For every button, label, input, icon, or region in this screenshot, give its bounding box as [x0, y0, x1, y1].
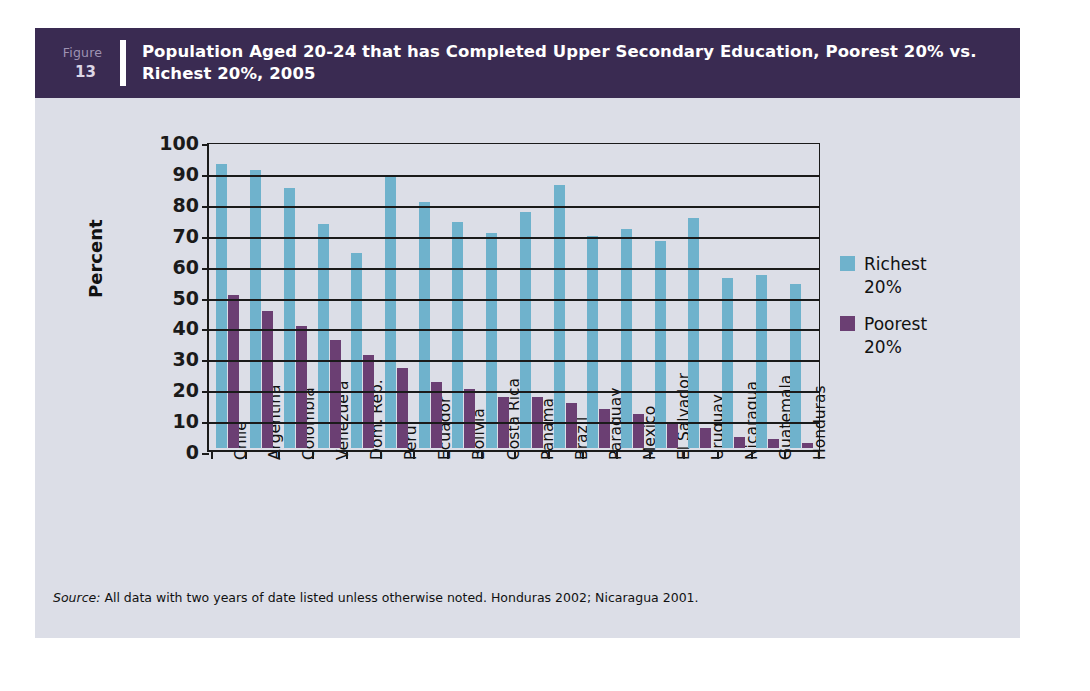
bar-group: [481, 144, 515, 448]
x-tick-mark: [278, 450, 312, 459]
legend-label: Poorest 20%: [864, 313, 942, 359]
x-tick-mark: [649, 450, 683, 459]
bar-group: [447, 144, 481, 448]
x-tick-label-cell: Argentina: [243, 456, 277, 576]
x-tick-mark: [211, 450, 245, 459]
gridline: [209, 329, 819, 331]
x-tick-label-cell: Bolivia: [447, 456, 481, 576]
gridline: [209, 206, 819, 208]
x-tick-mark: [312, 450, 346, 459]
source-text: All data with two years of date listed u…: [100, 590, 698, 605]
x-tick-mark: [346, 450, 380, 459]
bar-poorest: [566, 403, 577, 448]
bar-poorest: [768, 439, 779, 448]
bar-poorest: [363, 355, 374, 448]
gridline: [209, 175, 819, 177]
y-tick-label: 70: [173, 226, 199, 245]
bar-richest: [318, 224, 329, 448]
x-tick-label-cell: Nicaragua: [720, 456, 754, 576]
x-tick-label-cell: Chile: [209, 456, 243, 576]
figure-root: Figure 13 Population Aged 20-24 that has…: [0, 0, 1090, 691]
gridline: [209, 268, 819, 270]
y-tick-label: 80: [173, 195, 199, 214]
y-tick-label: 20: [173, 381, 199, 400]
source-note: Source: All data with two years of date …: [53, 590, 993, 606]
legend-label: Richest 20%: [864, 253, 942, 299]
y-tick-mark: [202, 360, 209, 362]
bar-richest: [452, 222, 463, 448]
bar-richest: [385, 175, 396, 448]
y-tick-mark: [202, 391, 209, 393]
header-divider-rule: [120, 40, 126, 86]
x-tick-label-cell: El Salvador: [652, 456, 686, 576]
bar-group: [683, 144, 717, 448]
x-tick-mark: [548, 450, 582, 459]
bar-group: [211, 144, 245, 448]
bar-richest: [655, 241, 666, 448]
y-tick-label: 40: [173, 319, 199, 338]
bar-group: [751, 144, 785, 448]
x-tick-mark: [616, 450, 650, 459]
x-tick-mark: [413, 450, 447, 459]
legend-swatch-icon: [840, 256, 855, 271]
x-tick-label-cell: Colombia: [277, 456, 311, 576]
y-tick-mark: [202, 453, 209, 455]
x-tick-mark: [481, 450, 515, 459]
x-tick-label-cell: Mexico: [618, 456, 652, 576]
x-axis-ticks: [211, 450, 818, 459]
x-tick-mark: [447, 450, 481, 459]
x-tick-label-cell: Guatemala: [754, 456, 788, 576]
x-tick-mark: [751, 450, 785, 459]
bar-poorest: [633, 414, 644, 448]
chart-legend: Richest 20%Poorest 20%: [840, 253, 990, 373]
y-tick-label: 50: [173, 288, 199, 307]
x-tick-mark: [380, 450, 414, 459]
y-axis-title: Percent: [85, 219, 106, 298]
x-tick-label-cell: Peru: [379, 456, 413, 576]
bar-poorest: [397, 368, 408, 448]
bar-poorest: [464, 389, 475, 448]
gridline: [209, 237, 819, 239]
figure-title: Population Aged 20-24 that has Completed…: [142, 41, 1020, 86]
bar-group: [649, 144, 683, 448]
bar-richest: [419, 202, 430, 448]
bar-poorest: [330, 340, 341, 448]
x-axis-tick-labels: ChileArgentinaColombiaVenezuelaDom. Rep.…: [209, 456, 822, 576]
bar-poorest: [296, 326, 307, 448]
bars-layer: [211, 144, 818, 448]
y-tick-mark: [202, 237, 209, 239]
gridline: [209, 299, 819, 301]
y-axis-tick-labels: 0102030405060708090100: [131, 143, 199, 452]
bar-richest: [554, 185, 565, 448]
y-tick-mark: [202, 268, 209, 270]
y-tick-mark: [202, 206, 209, 208]
x-tick-mark: [245, 450, 279, 459]
plot-area: [207, 143, 820, 452]
legend-item[interactable]: Poorest 20%: [840, 313, 990, 359]
y-tick-mark: [202, 175, 209, 177]
x-tick-label-cell: Honduras: [788, 456, 822, 576]
bar-richest: [284, 188, 295, 448]
x-tick-label-cell: Paraguay: [584, 456, 618, 576]
x-tick-label-cell: Venezuela: [311, 456, 345, 576]
gridline: [209, 391, 819, 393]
figure-number: 13: [51, 65, 120, 81]
x-tick-label-cell: Uruguay: [686, 456, 720, 576]
bar-group: [346, 144, 380, 448]
bar-poorest: [599, 409, 610, 448]
gridline: [209, 422, 819, 424]
bar-poorest: [228, 295, 239, 448]
y-tick-label: 60: [173, 257, 199, 276]
bar-group: [784, 144, 818, 448]
bar-richest: [621, 229, 632, 448]
bar-group: [413, 144, 447, 448]
y-tick-mark: [202, 329, 209, 331]
gridline: [209, 360, 819, 362]
bar-richest: [688, 218, 699, 448]
x-tick-label-cell: Brazil: [550, 456, 584, 576]
y-tick-mark: [202, 422, 209, 424]
plot-frame: [207, 143, 820, 452]
bar-group: [616, 144, 650, 448]
y-tick-label: 90: [173, 164, 199, 183]
legend-item[interactable]: Richest 20%: [840, 253, 990, 299]
